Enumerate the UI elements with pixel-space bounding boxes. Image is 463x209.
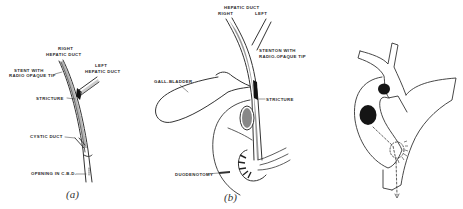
caption-a: (a) [66, 188, 79, 201]
label-stenton-2: RADIO-OPAQUE TIP [259, 54, 306, 59]
left-hepatic-duct-b [252, 19, 271, 50]
label-right-hepatic-duct-1: RIGHT [58, 46, 73, 51]
stone-small [378, 84, 390, 95]
label-left-hepatic-duct-1: LEFT [95, 63, 107, 68]
label-gall-bladder: GALL-BLADDER [154, 79, 193, 84]
label-right: RIGHT [218, 11, 233, 16]
label-hepatic-duct: HEPATIC DUCT [224, 5, 260, 10]
stone-large [360, 105, 377, 125]
figure-canvas: RIGHT HEPATIC DUCT STENT WITH RADIO OPAQ… [0, 0, 463, 209]
label-cystic-duct: CYSTIC DUCT [30, 134, 63, 139]
label-opening-cbd: OPENING IN C.B.D. [31, 171, 76, 176]
label-right-hepatic-duct-2: HEPATIC DUCT [46, 52, 82, 57]
figure-c [354, 43, 456, 198]
right-duct-c [392, 78, 456, 190]
label-duodenotomy: DUODENOTOMY [175, 172, 213, 177]
figure-b: HEPATIC DUCT RIGHT LEFT STENTON WITH RAD… [154, 5, 306, 204]
label-stent-2: RADIO OPAQUE TIP [9, 73, 56, 78]
label-stricture-b: STRICTURE [266, 97, 294, 102]
label-stenton-1: STENTON WITH [259, 48, 296, 53]
figure-a: RIGHT HEPATIC DUCT STENT WITH RADIO OPAQ… [9, 46, 121, 201]
label-left-hepatic-duct-2: HEPATIC DUCT [85, 69, 121, 74]
caption-b: (b) [224, 191, 237, 204]
label-left: LEFT [255, 11, 267, 16]
lower-tube-c [383, 170, 392, 190]
label-stricture-a: STRICTURE [36, 96, 64, 101]
